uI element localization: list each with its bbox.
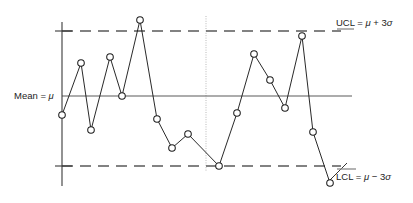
data-point-marker <box>107 54 114 61</box>
lcl-label: LCL = μ − 3σ <box>336 171 392 182</box>
mean-label-symbol: μ <box>48 90 55 101</box>
data-point-marker <box>119 93 126 100</box>
data-point-marker <box>78 60 85 67</box>
mean-label-prefix: Mean = <box>14 90 49 101</box>
data-point-marker <box>169 145 176 152</box>
data-point-marker <box>251 51 258 58</box>
data-point-marker <box>299 33 306 40</box>
data-point-marker <box>216 163 223 170</box>
data-point-marker <box>234 110 241 117</box>
control-chart-svg: Mean = μ UCL = μ + 3σ LCL = μ − 3σ <box>0 0 413 203</box>
data-point-marker <box>310 129 317 136</box>
ucl-label-operator: + 3 <box>371 17 387 28</box>
data-point-marker <box>137 17 144 24</box>
ucl-label-prefix: UCL = <box>336 17 365 28</box>
data-point-marker <box>59 112 66 119</box>
lcl-label-prefix: LCL = <box>336 171 364 182</box>
mean-label: Mean = μ <box>14 90 55 101</box>
control-chart-figure: Mean = μ UCL = μ + 3σ LCL = μ − 3σ <box>0 0 413 203</box>
data-point-marker <box>267 77 274 84</box>
ucl-label: UCL = μ + 3σ <box>336 17 394 28</box>
data-point-marker <box>154 116 161 123</box>
data-point-marker <box>88 127 95 134</box>
data-point-marker <box>185 131 192 138</box>
data-point-marker <box>327 180 334 187</box>
data-point-marker <box>282 105 289 112</box>
lcl-label-operator: − 3 <box>369 171 385 182</box>
